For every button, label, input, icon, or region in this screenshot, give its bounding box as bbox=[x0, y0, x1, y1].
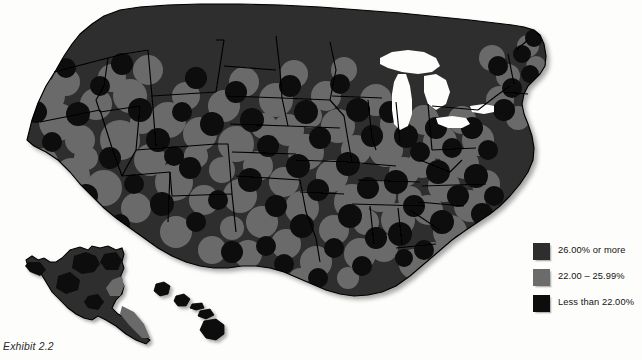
us-choropleth-map: 26.00% or more 22.00 – 25.99% Less than … bbox=[0, 0, 642, 360]
figure-page: 26.00% or more 22.00 – 25.99% Less than … bbox=[0, 0, 642, 360]
legend-swatch-high bbox=[533, 243, 550, 260]
legend-item-medium[interactable]: 22.00 – 25.99% bbox=[533, 264, 642, 290]
legend-label-medium: 22.00 – 25.99% bbox=[558, 272, 625, 281]
legend-swatch-medium bbox=[533, 269, 550, 286]
legend-item-low[interactable]: Less than 22.00% bbox=[533, 290, 642, 316]
exhibit-caption: Exhibit 2.2 bbox=[3, 341, 54, 352]
legend-label-low: Less than 22.00% bbox=[558, 298, 634, 307]
map-legend: 26.00% or more 22.00 – 25.99% Less than … bbox=[533, 238, 642, 316]
legend-item-high[interactable]: 26.00% or more bbox=[533, 238, 642, 264]
legend-label-high: 26.00% or more bbox=[558, 246, 626, 255]
legend-swatch-low bbox=[533, 295, 550, 312]
